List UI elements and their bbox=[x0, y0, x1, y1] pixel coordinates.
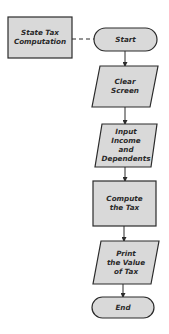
module-label-line-1: State Tax bbox=[21, 28, 59, 37]
io-input-income: Input Income and Dependents bbox=[95, 124, 157, 167]
io-clear-screen: Clear Screen bbox=[92, 66, 158, 107]
input-label-line-2: Income bbox=[111, 136, 140, 145]
input-label-line-3: and bbox=[118, 145, 134, 154]
io-print-tax: Print the Value of Tax bbox=[93, 241, 159, 284]
print-label-line-2: the Value bbox=[107, 258, 145, 267]
print-label-line-3: of Tax bbox=[114, 267, 138, 276]
clear-label-line-1: Clear bbox=[114, 77, 135, 86]
flowchart: State Tax Computation Start Clear Screen… bbox=[0, 0, 169, 334]
module-box-state-tax-computation: State Tax Computation bbox=[8, 17, 72, 58]
module-label-line-2: Computation bbox=[14, 37, 66, 46]
compute-label-line-1: Compute bbox=[106, 194, 142, 203]
input-label-line-4: Dependents bbox=[102, 154, 152, 163]
input-label-line-1: Input bbox=[115, 127, 137, 136]
compute-label-line-2: the Tax bbox=[110, 203, 140, 212]
clear-label-line-2: Screen bbox=[111, 86, 139, 95]
process-compute-tax: Compute the Tax bbox=[93, 181, 156, 226]
terminal-end: End bbox=[92, 297, 154, 318]
start-label: Start bbox=[115, 35, 136, 44]
end-label: End bbox=[115, 303, 131, 312]
print-label-line-1: Print bbox=[116, 249, 136, 258]
terminal-start: Start bbox=[94, 28, 157, 51]
